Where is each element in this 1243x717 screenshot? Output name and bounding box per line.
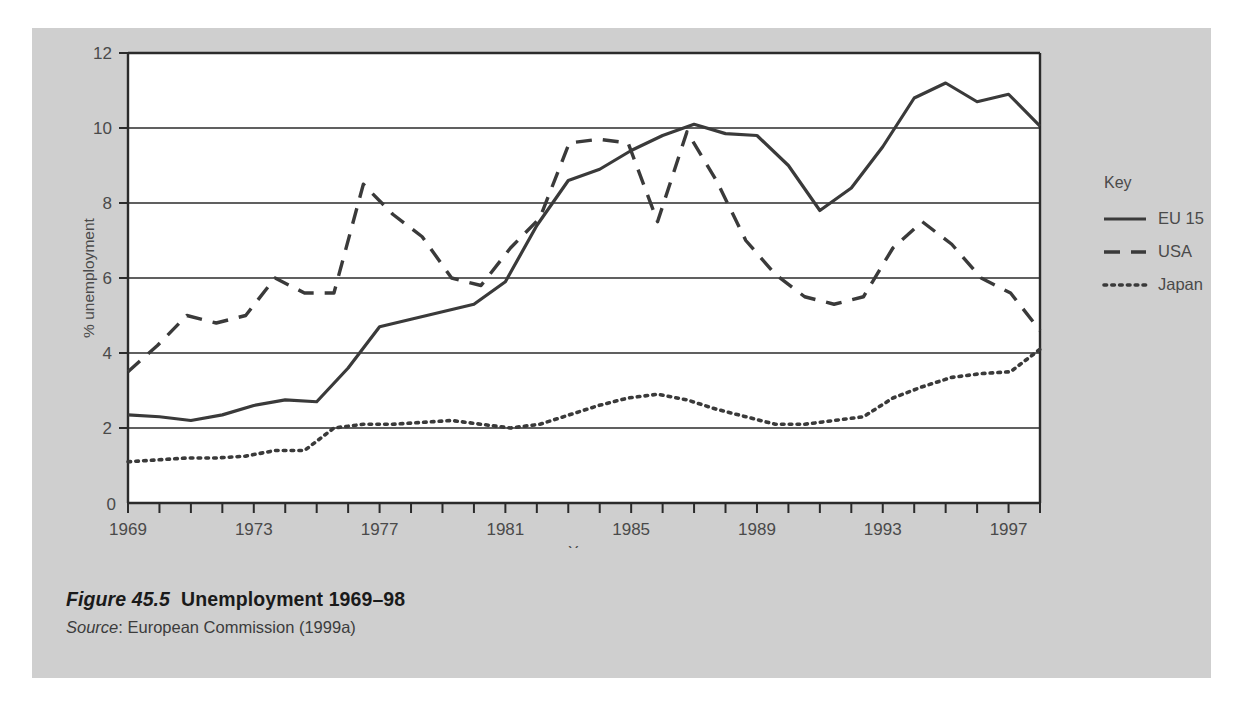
x-tick-label-1969: 1969 bbox=[109, 520, 147, 539]
y-tick-label-8: 8 bbox=[103, 194, 112, 213]
y-axis-zero-label: 0 bbox=[107, 495, 116, 514]
y-tick-label-4: 4 bbox=[103, 344, 112, 363]
y-tick-label-10: 10 bbox=[93, 119, 112, 138]
y-axis-ticks: 24681012 bbox=[93, 44, 128, 438]
chart-plot-area: 24681012 0 19691973197719811985198919931… bbox=[32, 28, 1211, 548]
x-axis-title: Year bbox=[568, 542, 599, 548]
figure-title: Figure 45.5Unemployment 1969–98 bbox=[66, 588, 1066, 611]
source-text: : European Commission (1999a) bbox=[118, 618, 356, 636]
x-tick-label-1973: 1973 bbox=[235, 520, 273, 539]
legend-title: Key bbox=[1104, 174, 1132, 191]
figure-caption-block: Figure 45.5Unemployment 1969–98 Source: … bbox=[66, 588, 1066, 637]
figure-panel: 24681012 0 19691973197719811985198919931… bbox=[32, 28, 1211, 678]
x-axis-tick-labels: 19691973197719811985198919931997 bbox=[109, 520, 1027, 539]
legend-label-eu-15: EU 15 bbox=[1158, 209, 1204, 227]
chart-legend: Key EU 15USAJapan bbox=[1104, 174, 1204, 293]
legend-entries: EU 15USAJapan bbox=[1104, 209, 1204, 293]
x-tick-label-1977: 1977 bbox=[361, 520, 399, 539]
figure-title-text: Unemployment 1969–98 bbox=[181, 588, 405, 610]
x-tick-label-1985: 1985 bbox=[612, 520, 650, 539]
y-axis-title: % unemployment bbox=[80, 217, 97, 337]
legend-label-usa: USA bbox=[1158, 242, 1192, 260]
figure-number: Figure 45.5 bbox=[66, 588, 170, 610]
x-tick-label-1993: 1993 bbox=[864, 520, 902, 539]
y-tick-label-6: 6 bbox=[103, 269, 112, 288]
y-tick-label-2: 2 bbox=[103, 419, 112, 438]
x-tick-label-1989: 1989 bbox=[738, 520, 776, 539]
x-tick-label-1981: 1981 bbox=[486, 520, 524, 539]
figure-source: Source: European Commission (1999a) bbox=[66, 618, 1066, 637]
source-label: Source bbox=[66, 618, 118, 636]
x-tick-label-1997: 1997 bbox=[990, 520, 1028, 539]
legend-label-japan: Japan bbox=[1158, 275, 1203, 293]
y-tick-label-12: 12 bbox=[93, 44, 112, 63]
x-axis-ticks bbox=[128, 503, 1040, 513]
unemployment-line-chart: 24681012 0 19691973197719811985198919931… bbox=[32, 28, 1211, 548]
